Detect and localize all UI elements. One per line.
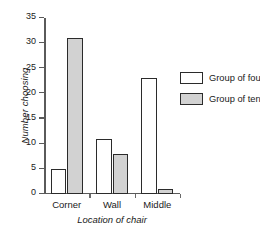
bar [158, 189, 174, 194]
legend-swatch-icon [180, 93, 203, 105]
plot-area: 05101520253035 CornerWallMiddle [44, 18, 180, 194]
x-axis-tick-label: Middle [143, 199, 171, 210]
bar [51, 169, 67, 194]
bar-chart: Number choosing 05101520253035 CornerWal… [0, 0, 260, 242]
x-axis-tick [89, 194, 90, 198]
x-axis-tick [135, 194, 136, 198]
y-axis-tick-label: 30 [26, 35, 36, 47]
y-axis-tick-label: 10 [26, 136, 36, 148]
legend-item: Group of ten [180, 93, 260, 105]
x-axis-title: Location of chair [44, 214, 180, 225]
x-axis-tick [180, 194, 181, 198]
y-axis-tick-label: 5 [31, 161, 36, 173]
y-axis-tick-label: 0 [31, 186, 36, 198]
y-axis-tick-label: 15 [26, 111, 36, 123]
bar [67, 38, 83, 194]
x-axis-tick-label: Wall [103, 199, 121, 210]
legend-label: Group of ten [209, 94, 260, 104]
y-axis-tick-label: 25 [26, 61, 36, 73]
legend-label: Group of four [209, 73, 260, 83]
bar [96, 139, 112, 194]
bar [113, 154, 129, 194]
y-axis-title: Number choosing [19, 36, 30, 176]
y-axis-tick-label: 35 [26, 10, 36, 22]
y-axis-tick-label: 20 [26, 86, 36, 98]
legend-item: Group of four [180, 72, 260, 84]
bar-group-container [44, 18, 180, 194]
chart-legend: Group of fourGroup of ten [180, 72, 260, 105]
bar [141, 78, 157, 194]
legend-swatch-icon [180, 72, 203, 84]
x-axis-tick-label: Corner [52, 199, 81, 210]
